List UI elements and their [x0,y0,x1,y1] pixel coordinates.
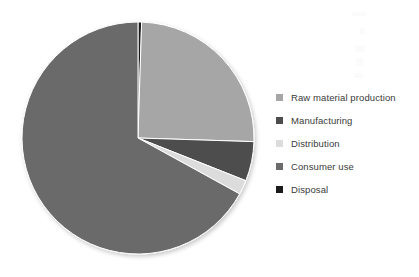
scan-artifact [352,12,366,16]
legend-swatch-icon [276,94,283,101]
legend-item-manufacturing[interactable]: Manufacturing [276,109,419,132]
legend-swatch-icon [276,163,283,170]
chart-legend: Raw material production Manufacturing Di… [276,86,419,201]
scan-artifact [355,45,365,52]
legend-item-consumer-use[interactable]: Consumer use [276,155,419,178]
scan-artifact [360,28,365,34]
legend-item-label: Distribution [291,139,340,149]
legend-item-disposal[interactable]: Disposal [276,178,419,201]
legend-swatch-icon [276,117,283,124]
legend-item-label: Manufacturing [291,116,353,126]
scan-artifact [354,73,363,78]
legend-item-label: Disposal [291,185,328,195]
scan-artifact [356,58,363,66]
pie-slices-group [22,22,254,254]
legend-item-distribution[interactable]: Distribution [276,132,419,155]
pie-svg [0,0,272,277]
pie-plot-area [0,0,272,277]
legend-item-label: Raw material production [291,93,396,103]
pie-chart-figure: Raw material production Manufacturing Di… [0,0,419,277]
legend-item-label: Consumer use [291,162,354,172]
pie-slice-raw-material-production[interactable] [138,22,254,142]
legend-swatch-icon [276,186,283,193]
legend-swatch-icon [276,140,283,147]
legend-item-raw-material-production[interactable]: Raw material production [276,86,419,109]
